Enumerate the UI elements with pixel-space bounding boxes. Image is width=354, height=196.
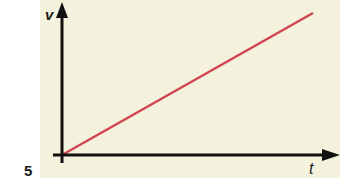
- x-axis-label: t: [309, 160, 313, 178]
- y-axis-arrow-icon: [56, 2, 68, 18]
- velocity-time-graph: [0, 0, 354, 196]
- velocity-line: [62, 13, 313, 155]
- y-axis-label: v: [45, 6, 53, 23]
- x-axis-arrow-icon: [322, 149, 340, 161]
- figure-number: 5: [24, 162, 32, 179]
